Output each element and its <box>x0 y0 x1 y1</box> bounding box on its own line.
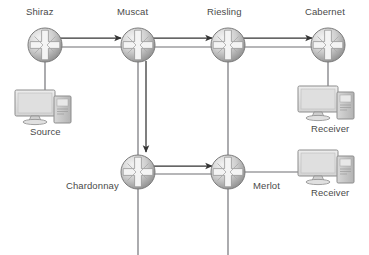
host-label-receiver-2: Receiver <box>311 187 349 198</box>
router-label-muscat: Muscat <box>117 6 148 17</box>
router-label-merlot: Merlot <box>253 180 280 191</box>
router-riesling[interactable] <box>210 27 246 63</box>
host-receiver-1-icon[interactable] <box>297 84 359 122</box>
router-cabernet[interactable] <box>310 27 346 63</box>
host-source-icon[interactable] <box>14 88 76 126</box>
host-receiver-2-icon[interactable] <box>297 148 359 186</box>
router-label-chardonnay: Chardonnay <box>66 180 119 191</box>
router-muscat[interactable] <box>120 27 156 63</box>
host-label-receiver-1: Receiver <box>311 123 349 134</box>
router-label-cabernet: Cabernet <box>305 6 345 17</box>
router-label-shiraz: Shiraz <box>26 6 54 17</box>
router-chardonnay[interactable] <box>120 154 156 190</box>
router-shiraz[interactable] <box>27 27 63 63</box>
host-label-source: Source <box>30 126 61 137</box>
network-diagram-canvas: Shiraz Muscat Riesling Cabernet Chardonn… <box>0 0 369 255</box>
router-label-riesling: Riesling <box>207 6 242 17</box>
router-merlot[interactable] <box>210 154 246 190</box>
